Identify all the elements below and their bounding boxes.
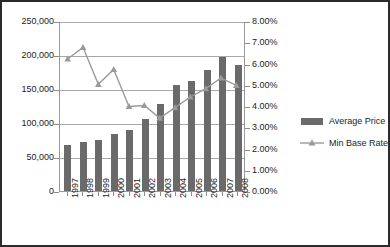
category-axis-tick-mark <box>222 192 223 196</box>
category-axis-tick-label: 2006 <box>210 178 219 198</box>
category-axis-tick-label: 2007 <box>226 178 235 198</box>
plot-area <box>59 22 245 192</box>
line-marker-triangle <box>80 44 87 50</box>
right-axis-tick-mark <box>245 43 250 44</box>
legend-item-average-price[interactable]: Average Price <box>300 110 388 132</box>
left-axis-tick-label: 100,000 <box>0 119 54 128</box>
category-axis-tick-mark <box>160 192 161 196</box>
category-axis-tick-label: 2002 <box>148 178 157 198</box>
right-axis-tick-label: 7.00% <box>252 38 312 47</box>
category-axis-tick-mark <box>206 192 207 196</box>
legend-label-average-price: Average Price <box>329 116 385 126</box>
category-axis-tick-label: 2001 <box>133 178 142 198</box>
category-axis-tick-mark <box>237 192 238 196</box>
chart-legend: Average Price Min Base Rate <box>300 110 388 154</box>
right-axis-tick-mark <box>245 171 250 172</box>
left-axis-tick-label: 50,000 <box>0 153 54 162</box>
category-axis-tick-mark <box>82 192 83 196</box>
category-axis-tick-label: 2003 <box>164 178 173 198</box>
line-marker-triangle <box>110 66 117 72</box>
line-marker-triangle <box>202 85 209 91</box>
right-axis-tick-mark <box>245 65 250 66</box>
left-axis-tick-label: 200,000 <box>0 51 54 60</box>
legend-swatch-line-triangle-icon <box>300 136 324 150</box>
category-axis-tick-label: 1997 <box>71 178 80 198</box>
line-path <box>68 47 237 118</box>
line-marker-triangle <box>218 75 225 81</box>
category-axis-tick-label: 1998 <box>86 178 95 198</box>
left-axis-tick-mark <box>54 192 59 193</box>
right-axis-tick-mark <box>245 128 250 129</box>
category-axis-tick-mark <box>144 192 145 196</box>
right-axis-tick-mark <box>245 150 250 151</box>
legend-swatch-bar-icon <box>300 114 324 128</box>
category-axis-tick-mark <box>129 192 130 196</box>
category-axis-tick-mark <box>113 192 114 196</box>
category-axis-tick-mark <box>98 192 99 196</box>
chart-frame: 050,000100,000150,000200,000250,000 0.00… <box>0 0 390 247</box>
category-axis-tick-mark <box>175 192 176 196</box>
right-axis-tick-label: 8.00% <box>252 17 312 26</box>
category-axis-tick-label: 1999 <box>102 178 111 198</box>
right-axis-tick-mark <box>245 86 250 87</box>
category-axis-tick-label: 2005 <box>195 178 204 198</box>
category-axis-tick-label: 2008 <box>241 178 250 198</box>
legend-item-min-base-rate[interactable]: Min Base Rate <box>300 132 388 154</box>
left-axis-tick-label: 250,000 <box>0 17 54 26</box>
right-axis-tick-mark <box>245 107 250 108</box>
category-axis-tick-label: 2004 <box>179 178 188 198</box>
category-axis-tick-mark <box>191 192 192 196</box>
right-axis-tick-mark <box>245 22 250 23</box>
right-axis-tick-label: 1.00% <box>252 166 312 175</box>
category-axis-tick-mark <box>67 192 68 196</box>
legend-label-min-base-rate: Min Base Rate <box>329 138 388 148</box>
category-axis-tick-label: 2000 <box>117 178 126 198</box>
left-axis-tick-label: 0 <box>0 187 54 196</box>
line-markers <box>64 44 239 121</box>
right-axis-tick-label: 5.00% <box>252 81 312 90</box>
line-marker-triangle <box>172 104 179 110</box>
line-series-min-base-rate <box>60 22 244 191</box>
right-axis-tick-label: 0.00% <box>252 187 312 196</box>
line-marker-triangle <box>187 94 194 100</box>
left-axis-tick-label: 150,000 <box>0 85 54 94</box>
right-axis-tick-label: 6.00% <box>252 60 312 69</box>
